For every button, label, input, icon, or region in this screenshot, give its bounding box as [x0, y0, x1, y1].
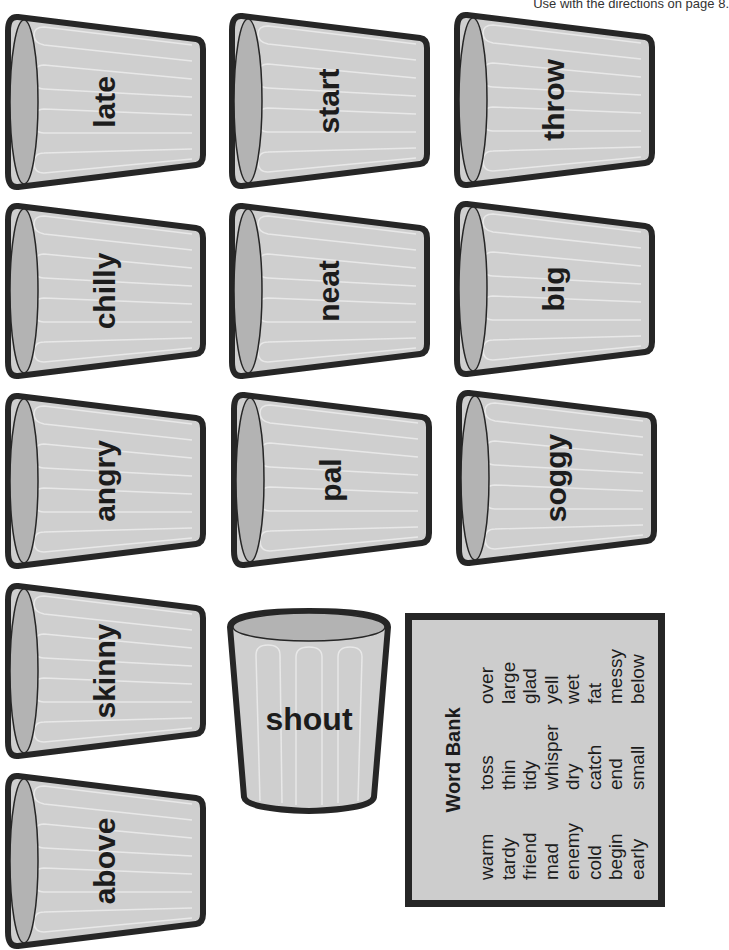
word-bank-word: catch: [584, 725, 606, 790]
sample-cup-shout: shout: [224, 605, 394, 815]
cup-word: angry: [88, 440, 122, 522]
word-bank-word: below: [627, 649, 649, 704]
word-bank-word: toss: [476, 725, 498, 790]
word-bank-word: large: [498, 649, 520, 704]
word-bank-title: Word Bank: [442, 620, 465, 900]
word-bank-word: dry: [562, 725, 584, 790]
word-bank-word: enemy: [562, 823, 584, 880]
word-bank-box: Word Bank warm tardy friend mad enemy co…: [405, 613, 665, 907]
word-bank-word: begin: [605, 823, 627, 880]
word-bank-word: wet: [562, 649, 584, 704]
page-reference-note: Use with the directions on page 8.: [533, 0, 729, 11]
cup-word: neat: [312, 260, 346, 322]
word-bank-column-2: toss thin tidy whisper dry catch end sma…: [476, 725, 648, 790]
word-bank-word: end: [605, 725, 627, 790]
word-bank-word: cold: [584, 823, 606, 880]
cup-word: chilly: [88, 253, 122, 330]
word-bank-word: glad: [519, 649, 541, 704]
word-bank-word: warm: [476, 823, 498, 880]
word-bank-column-1: warm tardy friend mad enemy cold begin e…: [476, 823, 648, 880]
cup-word: start: [312, 68, 346, 133]
word-bank-word: yell: [541, 649, 563, 704]
cup-word: late: [88, 76, 122, 128]
cup-word: skinny: [88, 623, 122, 718]
word-cup-neat[interactable]: neat: [228, 202, 430, 380]
word-bank-word: early: [627, 823, 649, 880]
word-cup-big[interactable]: big: [453, 200, 655, 378]
word-bank-word: mad: [541, 823, 563, 880]
word-bank-word: friend: [519, 823, 541, 880]
word-bank-word: fat: [584, 649, 606, 704]
cup-word: pal: [314, 458, 348, 501]
cup-word: throw: [537, 59, 571, 141]
word-cup-chilly[interactable]: chilly: [4, 202, 206, 380]
word-cup-start[interactable]: start: [228, 12, 430, 190]
word-cup-late[interactable]: late: [4, 13, 206, 191]
word-cup-pal[interactable]: pal: [230, 391, 432, 569]
cup-word: soggy: [539, 434, 573, 522]
word-cup-skinny[interactable]: skinny: [4, 582, 206, 760]
word-cup-soggy[interactable]: soggy: [455, 389, 657, 567]
word-bank-word: tardy: [498, 823, 520, 880]
word-bank-word: small: [627, 725, 649, 790]
word-cup-throw[interactable]: throw: [453, 11, 655, 189]
cup-word: big: [537, 267, 571, 312]
word-bank-column-3: over large glad yell wet fat messy below: [476, 649, 648, 704]
word-cup-angry[interactable]: angry: [4, 392, 206, 570]
word-cup-above[interactable]: above: [4, 772, 206, 950]
word-bank-word: tidy: [519, 725, 541, 790]
word-bank-word: whisper: [541, 725, 563, 790]
word-bank-word: messy: [605, 649, 627, 704]
word-bank-word: thin: [498, 725, 520, 790]
cup-word: shout: [224, 701, 394, 738]
word-bank-word: over: [476, 649, 498, 704]
cup-word: above: [88, 818, 122, 905]
